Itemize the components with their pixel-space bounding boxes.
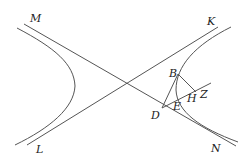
- label-H: H: [186, 92, 197, 105]
- label-D: D: [150, 109, 160, 122]
- label-L: L: [35, 143, 43, 156]
- label-K: K: [206, 15, 216, 28]
- hyperbola-left-branch: [15, 28, 75, 145]
- segment-BH: [178, 74, 196, 92]
- label-B: B: [168, 67, 177, 80]
- label-M: M: [29, 12, 42, 25]
- hyperbola-diagram: M K L N B D E H Z: [0, 0, 251, 162]
- label-Z: Z: [199, 88, 208, 101]
- label-E: E: [172, 100, 181, 113]
- label-N: N: [210, 142, 221, 155]
